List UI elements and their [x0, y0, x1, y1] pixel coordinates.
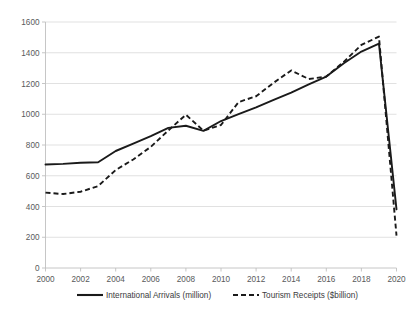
x-tick-label-2006: 2006 [142, 275, 161, 284]
x-tick-label-2018: 2018 [352, 275, 371, 284]
tourism-line-chart: 02004006008001000120014001600 2000200220… [0, 0, 419, 312]
x-tick-label-2000: 2000 [36, 275, 55, 284]
legend-label-1: Tourism Receipts ($billion) [262, 291, 358, 300]
x-tick-label-2004: 2004 [107, 275, 126, 284]
y-tick-labels: 02004006008001000120014001600 [21, 18, 40, 273]
x-axis-group [46, 268, 397, 272]
y-tick-label-1000: 1000 [21, 110, 40, 119]
y-tick-label-400: 400 [26, 203, 40, 212]
series-group [46, 37, 397, 236]
gridlines-group [46, 22, 397, 237]
x-tick-label-2014: 2014 [282, 275, 301, 284]
y-tick-label-1200: 1200 [21, 80, 40, 89]
legend: International Arrivals (million)Tourism … [77, 291, 358, 300]
y-tick-label-0: 0 [35, 264, 40, 273]
y-tick-label-800: 800 [26, 141, 40, 150]
legend-label-0: International Arrivals (million) [106, 291, 211, 300]
x-tick-label-2012: 2012 [247, 275, 266, 284]
y-tick-label-1600: 1600 [21, 18, 40, 27]
chart-canvas: 02004006008001000120014001600 2000200220… [0, 0, 419, 312]
series-line-0 [46, 44, 397, 210]
x-tick-label-2016: 2016 [317, 275, 336, 284]
y-axis-group [42, 22, 46, 268]
x-tick-label-2002: 2002 [71, 275, 90, 284]
x-tick-label-2020: 2020 [387, 275, 406, 284]
x-tick-labels: 2000200220042006200820102012201420162018… [36, 275, 406, 284]
series-line-1 [46, 37, 397, 236]
y-tick-label-200: 200 [26, 233, 40, 242]
x-tick-label-2008: 2008 [177, 275, 196, 284]
y-tick-label-600: 600 [26, 172, 40, 181]
x-tick-label-2010: 2010 [212, 275, 231, 284]
y-tick-label-1400: 1400 [21, 49, 40, 58]
